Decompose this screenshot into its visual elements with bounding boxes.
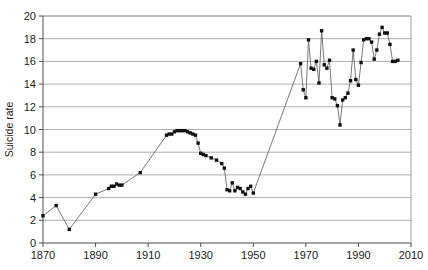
x-tick-label: 1950 [241, 249, 265, 261]
y-tick-label: 2 [30, 214, 36, 226]
data-point-marker [338, 123, 341, 126]
data-point-marker [54, 204, 57, 207]
data-point-marker [220, 162, 223, 165]
x-tick-label: 1870 [31, 249, 55, 261]
data-point-marker [120, 183, 123, 186]
y-tick-label: 4 [30, 192, 36, 204]
x-tick-label: 2010 [399, 249, 423, 261]
y-tick-label: 10 [24, 124, 36, 136]
data-point-marker [359, 61, 362, 64]
y-tick-label: 6 [30, 169, 36, 181]
data-point-marker [328, 59, 331, 62]
data-point-marker [317, 81, 320, 84]
data-point-marker [370, 40, 373, 43]
y-axis-title: Suicide rate [3, 102, 15, 158]
data-point-marker [68, 228, 71, 231]
x-tick-label: 1890 [83, 249, 107, 261]
data-point-marker [323, 63, 326, 66]
data-point-marker [307, 38, 310, 41]
data-point-marker [233, 189, 236, 192]
data-point-marker [41, 214, 44, 217]
y-tick-label: 16 [24, 55, 36, 67]
data-point-marker [396, 59, 399, 62]
data-point-marker [238, 187, 241, 190]
data-point-marker [94, 193, 97, 196]
data-point-marker [367, 37, 370, 40]
data-point-marker [320, 29, 323, 32]
data-point-marker [196, 141, 199, 144]
data-point-marker [210, 156, 213, 159]
data-point-marker [373, 57, 376, 60]
x-tick-label: 1990 [346, 249, 370, 261]
y-tick-label: 18 [24, 33, 36, 45]
data-point-marker [194, 133, 197, 136]
data-point-marker [204, 154, 207, 157]
data-point-marker [333, 97, 336, 100]
data-point-marker [231, 181, 234, 184]
suicide-rate-line-chart: 02468101214161820 1870189019101930195019… [0, 0, 428, 270]
data-point-marker [344, 96, 347, 99]
data-point-marker [386, 31, 389, 34]
data-point-marker [312, 68, 315, 71]
data-point-marker [354, 78, 357, 81]
data-point-marker [357, 84, 360, 87]
data-point-marker [388, 43, 391, 46]
data-point-marker [244, 193, 247, 196]
data-point-marker [351, 48, 354, 51]
chart-container: 02468101214161820 1870189019101930195019… [0, 0, 428, 270]
data-point-marker [304, 96, 307, 99]
data-point-marker [378, 32, 381, 35]
data-point-marker [315, 60, 318, 63]
data-point-marker [302, 88, 305, 91]
data-point-marker [346, 91, 349, 94]
y-axis-label: Suicide rate [3, 102, 15, 158]
data-point-marker [375, 48, 378, 51]
data-point-marker [252, 191, 255, 194]
y-tick-label: 0 [30, 237, 36, 249]
data-point-marker [299, 62, 302, 65]
data-point-marker [325, 67, 328, 70]
data-point-marker [139, 171, 142, 174]
data-point-marker [228, 189, 231, 192]
y-tick-label: 12 [24, 101, 36, 113]
y-tick-label: 8 [30, 146, 36, 158]
y-tick-label: 20 [24, 10, 36, 22]
data-point-marker [215, 158, 218, 161]
data-point-marker [349, 79, 352, 82]
x-tick-label: 1970 [294, 249, 318, 261]
data-point-marker [223, 166, 226, 169]
x-tick-label: 1930 [188, 249, 212, 261]
data-point-marker [380, 26, 383, 29]
data-point-marker [336, 104, 339, 107]
data-point-marker [249, 185, 252, 188]
y-tick-label: 14 [24, 78, 36, 90]
x-tick-label: 1910 [136, 249, 160, 261]
